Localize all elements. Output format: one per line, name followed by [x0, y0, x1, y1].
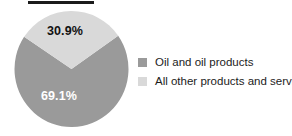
legend-label-all-other-products-and-services: All other products and services — [155, 76, 292, 88]
pie-chart-figure: 30.9% 69.1% Oil and oil products All oth… — [0, 0, 292, 136]
legend-item-oil-and-oil-products[interactable]: Oil and oil products — [138, 53, 288, 72]
legend-swatch-icon-oil-and-oil-products — [138, 58, 147, 67]
legend-swatch-icon-all-other-products-and-services — [138, 77, 147, 86]
legend-item-all-other-products-and-services[interactable]: All other products and services — [138, 72, 288, 91]
pie-slice-label-oil-and-oil-products: 69.1% — [41, 89, 77, 103]
chart-legend: Oil and oil products All other products … — [138, 53, 288, 91]
pie-slice-label-all-other-products-and-services: 30.9% — [47, 24, 83, 38]
title-underline-rule — [28, 1, 94, 4]
legend-label-oil-and-oil-products: Oil and oil products — [155, 57, 253, 69]
